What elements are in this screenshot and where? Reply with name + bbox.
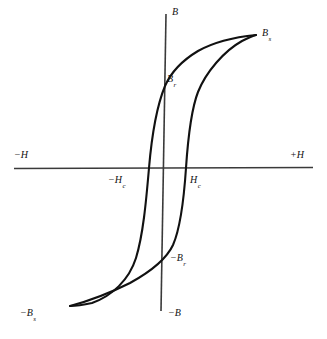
h-axis-negative-label: −H bbox=[14, 150, 28, 160]
b-axis-label: B bbox=[172, 7, 178, 17]
saturation-negative-label: −Bs bbox=[20, 308, 36, 321]
b-axis-negative-label: −B bbox=[168, 308, 181, 318]
h-axis-positive-label: +H bbox=[290, 150, 304, 160]
remanence-positive-label-subscript: r bbox=[174, 81, 177, 89]
coercivity-negative-label-text: −H bbox=[108, 174, 122, 185]
coercivity-negative-label-subscript: c bbox=[122, 182, 125, 190]
b-axis-line bbox=[161, 14, 166, 311]
saturation-positive-label-text: B bbox=[262, 27, 268, 38]
b-axis-label-text: B bbox=[172, 6, 178, 17]
remanence-negative-label-subscript: r bbox=[183, 260, 186, 268]
hysteresis-loop-figure: B Bs Br −H +H −Hc Hc −Br −Bs −B bbox=[0, 0, 327, 339]
h-axis-negative-label-text: −H bbox=[14, 149, 28, 160]
remanence-negative-label: −Br bbox=[170, 253, 186, 266]
saturation-negative-label-subscript: s bbox=[33, 315, 36, 323]
hysteresis-loop-canvas bbox=[0, 0, 327, 339]
coercivity-positive-label: Hc bbox=[190, 175, 201, 188]
b-axis-negative-label-text: −B bbox=[168, 307, 181, 318]
coercivity-negative-label: −Hc bbox=[108, 175, 125, 188]
coercivity-positive-label-subscript: c bbox=[198, 182, 201, 190]
remanence-positive-label: Br bbox=[167, 74, 176, 87]
remanence-negative-label-text: −B bbox=[170, 252, 183, 263]
remanence-positive-label-text: B bbox=[167, 73, 173, 84]
saturation-negative-label-text: −B bbox=[20, 307, 33, 318]
h-axis-positive-label-text: +H bbox=[290, 149, 304, 160]
saturation-positive-label: Bs bbox=[262, 28, 271, 41]
coercivity-positive-label-text: H bbox=[190, 174, 197, 185]
saturation-positive-label-subscript: s bbox=[269, 35, 272, 43]
